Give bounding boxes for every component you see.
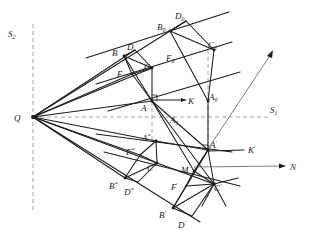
edge-b0-d0 [170,21,186,31]
label-F-prime: F' [170,182,179,192]
label-A-prime: A' [209,140,218,150]
shape-b0d0c0a0 [170,21,214,101]
label-K: K [187,96,195,106]
edge-bprime-dprime [173,208,192,216]
ray-q-to-d0 [33,21,186,117]
label-D0: D0 [174,11,185,22]
ray-q-to-b [33,50,135,117]
edge-aprime-kprime [208,150,244,151]
label-M: M [180,165,189,175]
label-C-prime: C' [214,183,222,193]
segment-aprime-kprime [208,150,244,151]
line-a-to-m [152,101,194,171]
label-D: D [126,42,134,52]
label-Q: Q [14,113,21,123]
label-S1: S1 [270,105,278,116]
axis-n-line [194,166,283,167]
ray-fan-upper [33,21,186,117]
label-D-star: D* [123,187,134,197]
vertex-b0 [169,30,172,33]
vertex-m [193,170,196,173]
vertex-astar [155,140,158,143]
label-S2: S2 [8,29,16,40]
label-B: B [112,48,118,58]
label-B-prime: B' [159,210,167,220]
geometry-diagram: S2 S1 N Q B D C F A A1 K A0 B0 D0 C2 F0 … [0,0,310,242]
arrow-head-n [279,163,286,168]
vertex-a [151,100,154,103]
vertex-bstar [124,177,127,180]
edge-astar-cstar [156,141,157,163]
label-C-star: C* [147,163,156,173]
axis-n-arrow [194,163,286,168]
edge-astar-fstar [140,141,156,155]
label-C0: C2 [208,40,217,51]
diagram-canvas: S2 S1 N Q B D C F A A1 K A0 B0 D0 C2 F0 … [0,0,310,242]
label-C: C [144,62,151,72]
vertex-bprime [172,207,175,210]
diagonal-arrow-line [206,54,271,152]
label-K-prime: K' [247,145,256,155]
label-D-prime: D' [177,220,187,230]
label-B-star: B* [109,181,118,191]
arrow-head-k [181,98,186,102]
parallel-line-cstar-long [104,152,240,186]
label-B0: B0 [157,22,166,33]
arrow-head-diagonal [267,50,273,58]
label-A0: A0 [208,92,218,103]
label-A1: A1 [169,115,179,126]
vertex-q [31,115,35,119]
edge-dprime-cprime [192,184,214,216]
vertex-b [123,55,126,58]
label-A: A [140,103,147,113]
edge-fprime-cprime [186,184,214,186]
dashed-axes [33,24,268,210]
label-N: N [289,162,297,172]
label-F-star: F* [125,147,135,157]
parallel-lines-lower [96,134,240,186]
label-F0: F0 [165,53,175,64]
label-F: F [116,69,123,79]
vertex-c [151,67,154,70]
